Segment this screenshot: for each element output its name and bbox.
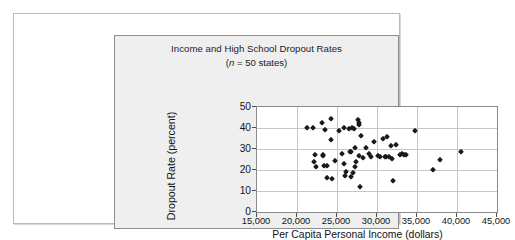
chart-panel: Income and High School Dropout Rates (n … [114,35,399,229]
chart-title: Income and High School Dropout Rates [115,43,398,54]
y-tick-mark [252,169,256,170]
y-tick-label: 0 [225,206,251,217]
y-tick-label: 50 [225,101,251,112]
x-tick-mark [296,213,297,217]
data-point [360,155,366,161]
x-tick-mark [496,213,497,217]
chart-subtitle-rest: = 50 states) [234,57,287,68]
chart-subtitle: (n = 50 states) [115,57,398,68]
y-tick-mark [252,190,256,191]
data-point [390,177,396,183]
y-tick-mark [252,148,256,149]
data-point [437,157,443,163]
x-tick-mark [376,213,377,217]
y-tick-mark [252,106,256,107]
y-tick-label: 40 [225,122,251,133]
y-axis-tick-labels: 01020304050 [223,106,251,213]
gridline-vertical [297,107,298,212]
data-point [368,154,374,160]
x-tick-label: 45,000 [470,216,515,226]
data-point [320,152,326,158]
gridline-vertical [457,107,458,212]
y-tick-mark [252,127,256,128]
data-point [347,149,353,155]
data-point [328,137,334,143]
x-axis-label: Per Capita Personal Income (dollars) [215,229,500,240]
data-point [303,125,309,131]
data-point [430,166,436,172]
plot-area [256,106,498,213]
data-point [371,139,377,145]
x-tick-mark [256,213,257,217]
data-point [384,134,390,140]
y-tick-mark [252,211,256,212]
data-point [323,163,329,169]
data-point [339,151,345,157]
figure-outer-frame: Income and High School Dropout Rates (n … [13,13,400,224]
x-axis-tick-labels: 15,00020,00025,00030,00035,00040,00045,0… [256,216,498,230]
y-tick-label: 10 [225,185,251,196]
data-point [329,176,335,182]
data-point [341,161,347,167]
data-point [387,143,393,149]
gridline-vertical [377,107,378,212]
x-tick-mark [456,213,457,217]
figure-root: Income and High School Dropout Rates (n … [0,0,413,238]
data-point [319,119,325,125]
x-tick-mark [336,213,337,217]
y-tick-label: 20 [225,164,251,175]
x-tick-mark [416,213,417,217]
data-point [393,142,399,148]
y-axis-label: Dropout Rate (percent) [165,86,177,240]
data-point [389,156,395,162]
data-point [351,126,357,132]
data-point [357,184,363,190]
gridline-vertical [417,107,418,212]
data-point [358,133,364,139]
data-point [327,116,333,122]
data-point [311,152,317,158]
y-tick-label: 30 [225,143,251,154]
